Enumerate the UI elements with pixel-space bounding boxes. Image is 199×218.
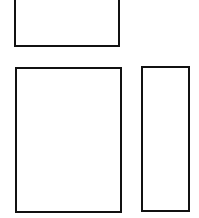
bottom-right-rectangle	[141, 66, 190, 212]
bottom-left-rectangle	[15, 67, 122, 213]
wireframe-canvas	[0, 0, 199, 218]
top-rectangle	[14, 0, 120, 47]
